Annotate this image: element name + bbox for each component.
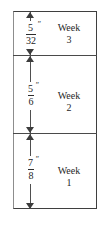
fraction-numerator-week-3: 5″ xyxy=(26,22,36,33)
week-word-1: Week xyxy=(44,165,94,177)
growth-diagram: 5″ 32 Week 3 5″ 6 Week 2 7″ xyxy=(0,0,103,226)
numerator-value-week-2: 5 xyxy=(28,83,33,94)
week-word-2: Week xyxy=(44,90,94,102)
fraction-denominator-week-3: 32 xyxy=(26,35,36,46)
inch-mark-icon-week-2: ″ xyxy=(36,82,39,90)
measurement-week-2: 5″ 6 xyxy=(18,82,44,110)
measurement-week-1: 7″ 8 xyxy=(18,156,44,184)
week-number-2: 2 xyxy=(44,102,94,114)
fraction-denominator-week-1: 8 xyxy=(28,170,34,181)
inch-mark-icon-week-1: ″ xyxy=(36,156,39,164)
arrow-down-icon-week-2 xyxy=(26,127,34,133)
week-number-3: 3 xyxy=(44,34,94,46)
arrow-up-icon-week-1 xyxy=(26,134,34,140)
fraction-numerator-week-2: 5″ xyxy=(28,83,34,94)
arrow-up-icon-week-2 xyxy=(26,56,34,62)
arrow-down-icon-week-1 xyxy=(26,203,34,209)
measurement-week-3: 5″ 32 xyxy=(18,21,44,49)
label-week-2: Week 2 xyxy=(44,90,94,114)
label-week-3: Week 3 xyxy=(44,22,94,46)
arrow-down-icon-week-3 xyxy=(26,49,34,55)
label-week-1: Week 1 xyxy=(44,165,94,189)
fraction-denominator-week-2: 6 xyxy=(28,96,34,107)
week-word-3: Week xyxy=(44,22,94,34)
numerator-value-week-1: 7 xyxy=(28,157,33,168)
numerator-value-week-3: 5 xyxy=(28,22,33,33)
inch-mark-icon-week-3: ″ xyxy=(38,21,41,29)
arrow-up-icon-week-3 xyxy=(26,12,34,18)
week-number-1: 1 xyxy=(44,177,94,189)
fraction-numerator-week-1: 7″ xyxy=(28,157,34,168)
